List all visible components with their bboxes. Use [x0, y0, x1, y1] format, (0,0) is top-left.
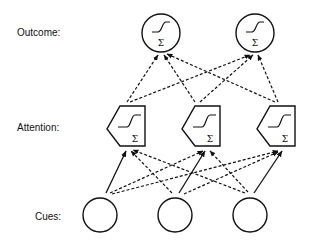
attention-node-3: Σ	[257, 106, 295, 146]
sum-icon: Σ	[158, 38, 164, 48]
cue-node-1	[83, 198, 117, 232]
outcome-node-1: Σ	[142, 14, 180, 52]
attention-node-1: Σ	[107, 106, 145, 146]
sum-icon: Σ	[207, 134, 213, 144]
sum-icon: Σ	[252, 38, 258, 48]
network-diagram: Σ Σ Σ Σ Σ	[0, 0, 312, 250]
cue-to-attention-dashed-connections	[110, 150, 278, 194]
attention-node-2: Σ	[182, 106, 220, 146]
sum-icon: Σ	[282, 134, 288, 144]
cue-node-3	[233, 198, 267, 232]
attention-to-outcome-connections	[127, 54, 278, 102]
outcome-node-2: Σ	[236, 14, 274, 52]
sum-icon: Σ	[132, 134, 138, 144]
cue-node-2	[158, 198, 192, 232]
cue-to-attention-solid-connections	[106, 151, 282, 193]
